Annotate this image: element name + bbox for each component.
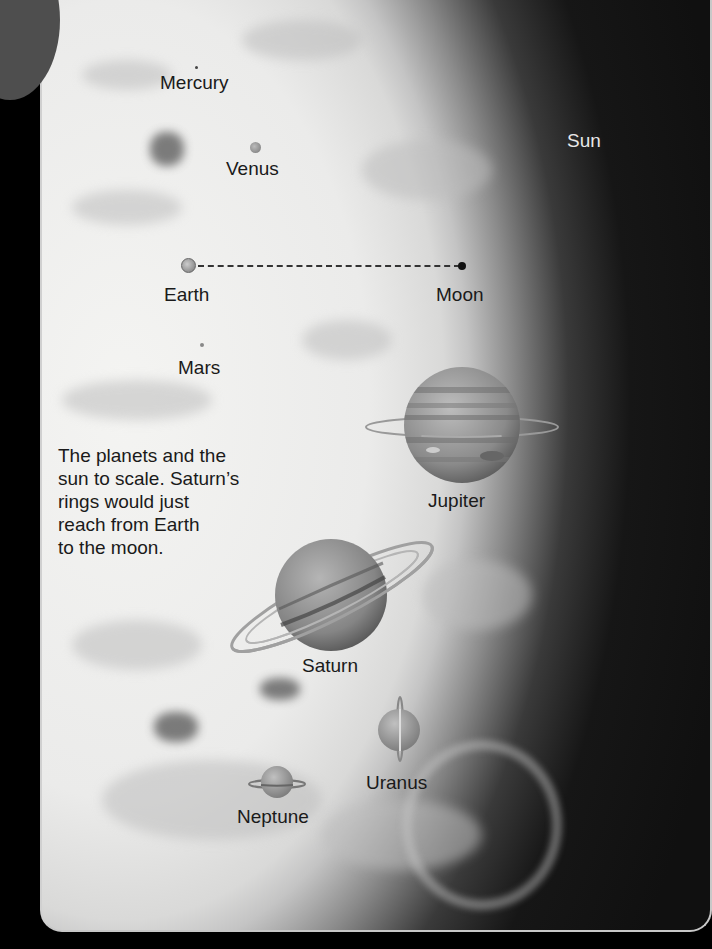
- earth-label: Earth: [164, 284, 209, 306]
- saturn-label: Saturn: [302, 655, 358, 677]
- solar-prominence: [402, 740, 562, 910]
- uranus-icon: [372, 694, 422, 764]
- surface-mottle: [72, 190, 182, 225]
- mars-label: Mars: [178, 357, 220, 379]
- caption-line: The planets and the: [58, 444, 298, 467]
- venus-label: Venus: [226, 158, 279, 180]
- jupiter-icon: [360, 365, 570, 485]
- venus-icon: [250, 142, 261, 153]
- moon-icon: [458, 262, 466, 270]
- surface-mottle: [302, 320, 392, 360]
- surface-mottle: [242, 20, 362, 60]
- surface-mottle: [82, 60, 172, 90]
- earth-moon-distance-line: [198, 265, 460, 267]
- caption-line: sun to scale. Saturn’s: [58, 467, 298, 490]
- sunspot: [154, 712, 198, 742]
- saturn-icon: [215, 525, 450, 665]
- sunspot: [150, 132, 184, 166]
- earth-icon: [181, 258, 196, 273]
- mercury-icon: [195, 66, 198, 69]
- sunspot: [260, 678, 300, 700]
- sun-label: Sun: [567, 130, 601, 152]
- uranus-label: Uranus: [366, 772, 427, 794]
- neptune-label: Neptune: [237, 806, 309, 828]
- jupiter-label: Jupiter: [428, 490, 485, 512]
- surface-mottle: [62, 380, 212, 420]
- neptune-icon: [246, 764, 308, 804]
- mercury-label: Mercury: [160, 72, 229, 94]
- mars-icon: [200, 343, 204, 347]
- caption-line: rings would just: [58, 490, 298, 513]
- surface-mottle: [362, 140, 492, 200]
- moon-label: Moon: [436, 284, 484, 306]
- surface-mottle: [72, 620, 202, 670]
